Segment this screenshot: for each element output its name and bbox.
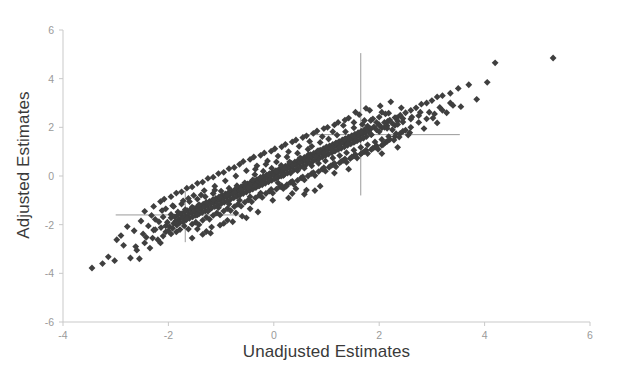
x-axis-tick-label: -4 <box>58 329 67 341</box>
data-point <box>113 236 120 243</box>
data-point <box>342 128 349 135</box>
data-point <box>394 144 401 151</box>
data-point <box>131 227 138 234</box>
data-point <box>111 257 118 264</box>
data-point <box>141 208 148 215</box>
data-point <box>345 166 352 173</box>
axes-group <box>63 30 590 322</box>
data-point <box>275 153 282 160</box>
data-point <box>423 115 430 122</box>
y-axis-tick-label: 2 <box>48 121 54 133</box>
data-point <box>147 245 154 252</box>
data-point <box>325 136 332 143</box>
data-point <box>222 177 229 184</box>
data-point <box>199 179 206 186</box>
data-point <box>189 235 196 242</box>
y-axis-tick-label: 4 <box>48 73 54 85</box>
scatter-chart-figure: Adjusted Estimates Unadjusted Estimates … <box>0 0 617 375</box>
data-point <box>194 180 201 187</box>
data-point <box>434 120 441 127</box>
data-point <box>426 109 433 116</box>
data-point <box>492 59 499 66</box>
data-point <box>484 79 491 86</box>
data-point <box>421 125 428 132</box>
y-axis-tick-label: 6 <box>48 24 54 36</box>
data-point <box>331 170 338 177</box>
x-axis-tick-label: 4 <box>482 329 488 341</box>
data-point <box>473 96 480 103</box>
data-point <box>208 224 215 231</box>
data-point <box>99 260 106 267</box>
data-point <box>189 184 196 191</box>
data-point <box>141 240 148 247</box>
data-point <box>118 232 125 239</box>
data-point <box>418 101 425 108</box>
data-point <box>296 143 303 150</box>
data-point <box>434 94 441 101</box>
data-point <box>398 104 405 111</box>
data-point <box>243 167 250 174</box>
data-point <box>168 193 175 200</box>
data-point <box>312 187 319 194</box>
data-point <box>387 98 394 105</box>
data-point <box>269 197 276 204</box>
data-point <box>226 165 233 172</box>
data-point <box>178 188 185 195</box>
data-point <box>210 174 217 181</box>
data-point <box>215 170 222 177</box>
data-point <box>351 124 358 131</box>
data-point <box>343 149 350 156</box>
y-axis-tick-label: -6 <box>45 316 54 328</box>
data-point <box>105 253 112 260</box>
tick-labels-group: -6-4-20246-4-20246 <box>45 24 593 341</box>
x-axis-label: Unadjusted Estimates <box>63 342 590 362</box>
data-point <box>377 103 384 110</box>
data-point <box>336 152 343 159</box>
data-point <box>220 169 227 176</box>
data-point <box>120 242 127 249</box>
data-point <box>317 183 324 190</box>
ticks-group <box>59 30 590 326</box>
data-point <box>447 90 454 97</box>
data-point <box>205 175 212 182</box>
plot-area: -6-4-20246-4-20246 <box>0 0 617 375</box>
annotations-group <box>116 53 460 242</box>
y-axis-tick-label: -2 <box>45 219 54 231</box>
x-axis-tick-label: -2 <box>164 329 173 341</box>
data-point <box>285 148 292 155</box>
data-point <box>232 173 239 180</box>
x-axis-tick-label: 0 <box>271 329 277 341</box>
data-point <box>231 164 238 171</box>
data-point <box>183 185 190 192</box>
data-point <box>124 223 131 230</box>
data-point <box>211 183 218 190</box>
data-point <box>89 265 96 272</box>
y-axis-tick-label: 0 <box>48 170 54 182</box>
x-axis-tick-label: 6 <box>587 329 593 341</box>
data-point <box>150 203 157 210</box>
data-point <box>457 103 464 110</box>
data-point <box>149 235 156 242</box>
data-point <box>317 139 324 146</box>
data-point <box>364 141 371 148</box>
data-point <box>136 255 143 262</box>
data-point <box>415 119 422 126</box>
data-point <box>550 55 557 62</box>
data-point <box>439 92 446 99</box>
y-axis-tick-label: -4 <box>45 267 54 279</box>
data-point <box>145 222 152 229</box>
data-point <box>127 255 134 262</box>
data-point <box>465 81 472 88</box>
data-point <box>247 205 254 212</box>
data-point <box>340 122 347 129</box>
data-point <box>229 218 236 225</box>
data-point <box>407 124 414 131</box>
data-point <box>455 85 462 92</box>
data-points-group <box>89 55 557 272</box>
data-point <box>138 218 145 225</box>
data-point <box>255 209 262 216</box>
data-point <box>173 190 180 197</box>
x-axis-tick-label: 2 <box>376 329 382 341</box>
